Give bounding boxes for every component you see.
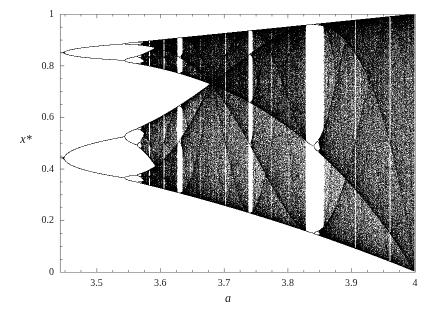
x-tick-label: 4 xyxy=(400,277,429,288)
x-tick-label: 3.7 xyxy=(209,277,239,288)
bifurcation-diagram-figure: x* a 00.20.40.60.81 3.53.63.73.83.94 xyxy=(0,0,429,314)
x-tick-label: 3.8 xyxy=(273,277,303,288)
y-tick-label: 0.8 xyxy=(24,60,54,71)
x-tick-label: 3.6 xyxy=(145,277,175,288)
y-axis-label: x* xyxy=(9,132,43,147)
x-tick-label: 3.5 xyxy=(82,277,112,288)
y-tick-label: 1 xyxy=(24,8,54,19)
y-tick-label: 0.6 xyxy=(24,111,54,122)
bifurcation-plot-canvas xyxy=(0,0,429,314)
y-tick-label: 0.2 xyxy=(24,214,54,225)
y-tick-label: 0 xyxy=(24,266,54,277)
x-tick-label: 3.9 xyxy=(336,277,366,288)
y-tick-label: 0.4 xyxy=(24,163,54,174)
x-axis-label: a xyxy=(212,291,244,306)
